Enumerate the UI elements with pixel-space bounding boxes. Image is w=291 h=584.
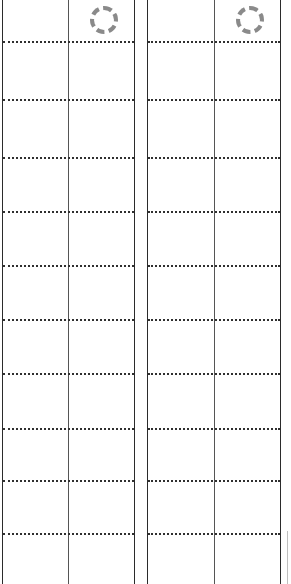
table-row[interactable]: [148, 100, 214, 157]
row-separator: [3, 99, 134, 101]
column-rule-left-end: [134, 0, 135, 584]
column-rule-right-outer: [147, 0, 148, 584]
table-row[interactable]: [3, 534, 68, 584]
column-rule-right-inner: [214, 0, 215, 584]
table-row[interactable]: [69, 320, 134, 373]
table-row[interactable]: [69, 481, 134, 533]
table-row[interactable]: [148, 481, 214, 533]
table-row[interactable]: [148, 374, 214, 428]
table-row[interactable]: [148, 534, 214, 584]
table-row[interactable]: [69, 374, 134, 428]
table-row[interactable]: [69, 429, 134, 480]
column-rule-left-inner: [68, 0, 69, 584]
table-row[interactable]: [215, 212, 280, 265]
table-row[interactable]: [3, 100, 68, 157]
table-row[interactable]: [3, 266, 68, 319]
row-separator: [148, 319, 280, 321]
row-separator: [148, 265, 280, 267]
table-row[interactable]: [215, 42, 280, 99]
table-row[interactable]: [3, 158, 68, 211]
row-separator: [148, 157, 280, 159]
table-row[interactable]: [215, 534, 280, 584]
table-row[interactable]: [148, 266, 214, 319]
row-separator: [148, 373, 280, 375]
row-separator: [3, 533, 134, 535]
row-separator: [148, 99, 280, 101]
column-rule-left-outer: [2, 0, 3, 584]
table-row[interactable]: [3, 481, 68, 533]
row-separator: [3, 319, 134, 321]
table-row[interactable]: [69, 534, 134, 584]
table-row[interactable]: [69, 266, 134, 319]
table-row[interactable]: [148, 158, 214, 211]
table-row[interactable]: [148, 42, 214, 99]
table-row[interactable]: [148, 0, 214, 41]
row-separator: [148, 480, 280, 482]
row-separator: [3, 41, 134, 43]
table-row[interactable]: [69, 100, 134, 157]
table-row[interactable]: [215, 429, 280, 480]
table-row[interactable]: [69, 0, 134, 41]
row-separator: [3, 373, 134, 375]
row-separator: [3, 211, 134, 213]
table-row[interactable]: [148, 212, 214, 265]
table-row[interactable]: [69, 212, 134, 265]
table-row[interactable]: [148, 429, 214, 480]
row-separator: [148, 211, 280, 213]
row-separator: [3, 428, 134, 430]
table-row[interactable]: [215, 481, 280, 533]
row-separator: [3, 157, 134, 159]
table-row[interactable]: [215, 374, 280, 428]
table-row[interactable]: [215, 266, 280, 319]
grid-canvas: [0, 0, 291, 584]
table-row[interactable]: [3, 42, 68, 99]
table-row[interactable]: [215, 158, 280, 211]
table-row[interactable]: [3, 429, 68, 480]
table-row[interactable]: [3, 0, 68, 41]
right-edge-rule: [287, 531, 288, 584]
table-row[interactable]: [3, 320, 68, 373]
table-row[interactable]: [215, 100, 280, 157]
row-separator: [148, 428, 280, 430]
row-separator: [148, 533, 280, 535]
table-row[interactable]: [215, 0, 280, 41]
table-row[interactable]: [3, 212, 68, 265]
table-row[interactable]: [69, 42, 134, 99]
column-rule-right-end: [280, 0, 281, 584]
table-row[interactable]: [148, 320, 214, 373]
table-row[interactable]: [69, 158, 134, 211]
table-row[interactable]: [215, 320, 280, 373]
row-separator: [3, 265, 134, 267]
row-separator: [148, 41, 280, 43]
row-separator: [3, 480, 134, 482]
table-row[interactable]: [3, 374, 68, 428]
